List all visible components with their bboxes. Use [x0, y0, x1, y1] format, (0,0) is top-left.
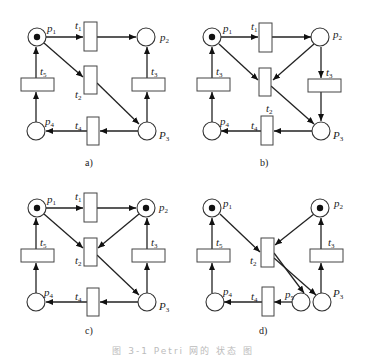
arc-p1-t2: [219, 44, 258, 80]
transition-t1: [259, 23, 272, 52]
label-p3: P3: [158, 129, 170, 143]
label-p3: P3: [332, 287, 344, 301]
arc-p2-t2: [275, 214, 314, 245]
label-p4: p4: [44, 115, 55, 129]
place-p3: [313, 293, 331, 311]
token: [209, 34, 215, 40]
transition-t4: [87, 288, 99, 316]
transition-t5: [21, 78, 54, 91]
transition-t5: [21, 249, 54, 262]
label-t1: t1: [75, 19, 82, 33]
label-p1: p1: [46, 193, 57, 207]
label-t1: t1: [251, 20, 258, 34]
label-t4: t4: [75, 290, 82, 304]
transition-t5: [197, 78, 230, 91]
subfigure-label-a: a): [85, 157, 93, 169]
subfigure-a: p1 p2 P3 p4 t1 t2 t3 t4 t5 a): [21, 19, 170, 169]
transition-t1: [84, 22, 97, 51]
label-p3: P3: [158, 300, 170, 314]
transition-t3: [310, 249, 343, 262]
label-p2: p2: [158, 201, 169, 215]
place-p4: [203, 122, 221, 140]
subfigure-label-d: d): [259, 325, 267, 337]
place-p4: [27, 293, 45, 311]
label-p4: p4: [222, 285, 233, 299]
subfigure-label-b: b): [260, 157, 268, 169]
arc-t2-p5: [274, 253, 304, 293]
label-t2: t2: [266, 102, 273, 116]
token: [209, 205, 215, 211]
label-t5: t3: [216, 65, 223, 79]
label-p4: p4: [43, 286, 54, 300]
label-p1: p1: [46, 22, 57, 36]
arc-p1-t2: [44, 43, 83, 77]
subfigure-b: p1 p2 P3 p4 t1 t2 t3 t4 t3 b): [197, 20, 344, 169]
label-t4: t4: [251, 290, 258, 304]
transition-t2-middle: [259, 68, 271, 96]
place-p4: [206, 293, 224, 311]
petri-net-figure: p1 p2 P3 p4 t1 t2 t3 t4 t5 a) p1 p2 P: [0, 0, 366, 357]
transition-t3: [132, 249, 165, 262]
arc-t2-p3: [274, 258, 316, 295]
transition-t2: [84, 238, 97, 266]
label-p1: p1: [222, 22, 233, 36]
transition-t3: [308, 79, 341, 92]
label-t5: t5: [40, 65, 47, 79]
label-p3: P3: [332, 129, 344, 143]
place-p3: [138, 122, 156, 140]
place-p4: [27, 122, 45, 140]
label-p2: p2: [159, 31, 170, 45]
label-p1: p1: [222, 197, 233, 211]
label-t1: t1: [75, 190, 82, 204]
place-p2: [137, 28, 155, 46]
label-t2: t2: [75, 254, 82, 268]
arc-p2-t2: [273, 44, 314, 80]
label-t5: t5: [216, 236, 223, 250]
label-t3: t3: [326, 66, 333, 80]
transition-t2: [261, 238, 274, 267]
label-t5: t5: [40, 236, 47, 250]
label-p4: p4: [219, 115, 230, 129]
label-t4: t4: [75, 119, 82, 133]
token: [34, 34, 40, 40]
place-p2: [311, 28, 329, 46]
transition-t3: [132, 78, 165, 91]
subfigure-d: p1 p2 P3 p4 p5 t2 t3 t4 t5 d): [197, 197, 344, 337]
token: [317, 205, 323, 211]
subfigure-label-c: c): [85, 325, 93, 337]
label-p2: p2: [332, 28, 343, 42]
label-t3: t3: [151, 65, 158, 79]
place-p3: [138, 293, 156, 311]
label-t3: t3: [151, 236, 158, 250]
subfigure-c: p1 p2 P3 p4 t1 t2 t3 t4 t5 c): [21, 190, 170, 337]
token: [143, 205, 149, 211]
label-p5: p5: [284, 288, 295, 302]
transition-t4: [87, 117, 99, 145]
place-p3: [312, 122, 330, 140]
label-t2: t2: [75, 88, 82, 102]
token: [34, 205, 40, 211]
arc-p1-t2: [44, 214, 83, 248]
transition-t1: [84, 193, 97, 222]
transition-t4: [261, 116, 273, 145]
label-t2: t2: [250, 254, 257, 268]
label-t4: t4: [251, 119, 258, 133]
label-t3: t3: [328, 236, 335, 250]
transition-t5: [197, 249, 230, 262]
arc-p1-t2: [220, 214, 260, 252]
figure-caption: 图 3-1 Petri 网的 状态 图: [0, 344, 366, 357]
transition-t4: [262, 287, 274, 316]
arc-p2-t2: [98, 214, 139, 248]
place-p5: [292, 293, 310, 311]
transition-t2: [84, 66, 97, 94]
label-p2: p2: [333, 197, 344, 211]
